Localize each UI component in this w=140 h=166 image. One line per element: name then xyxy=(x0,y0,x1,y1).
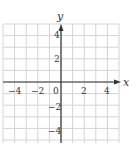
y-tick-label: −4 xyxy=(48,126,62,136)
x-axis-label: x xyxy=(123,76,130,89)
y-tick-label: 4 xyxy=(54,30,60,40)
origin-label: 0 xyxy=(53,86,59,96)
y-axis-label: y xyxy=(56,10,64,23)
x-axis-arrow-icon xyxy=(114,80,121,85)
x-tick-label: 2 xyxy=(81,86,87,96)
x-tick-label: 4 xyxy=(104,86,110,96)
y-tick-label: −2 xyxy=(48,102,61,112)
y-tick-label: 2 xyxy=(54,54,60,64)
x-tick-label: −2 xyxy=(31,86,44,96)
x-tick-label: −4 xyxy=(8,86,22,96)
coordinate-plane: x y −4 −2 0 2 4 4 2 −2 −4 xyxy=(0,0,140,166)
